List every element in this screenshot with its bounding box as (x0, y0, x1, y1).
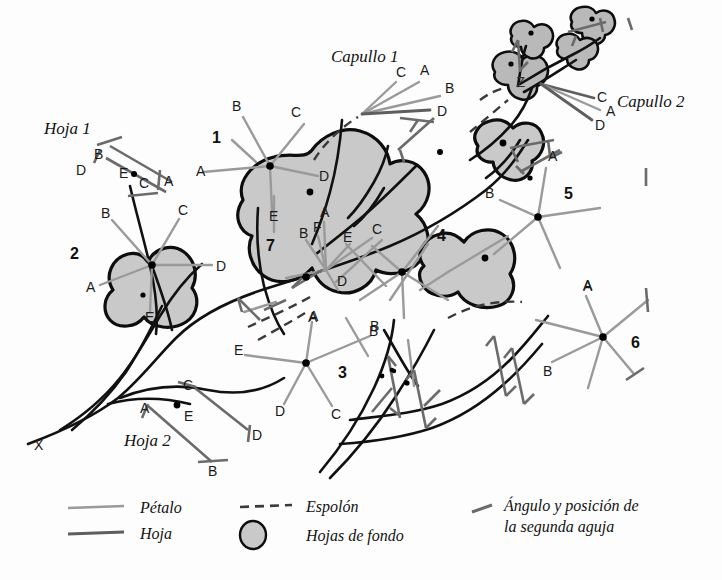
capullo2-label-A: A (606, 103, 616, 119)
cluster-number-1: 1 (212, 129, 221, 146)
legend-swatch-hoja (68, 532, 124, 534)
legend-swatch-hojas-fondo (240, 521, 266, 549)
petal-ray-6-B (552, 337, 603, 362)
hoja1-label-E: E (119, 165, 128, 181)
legend-swatch-aguja (472, 505, 492, 512)
petal-label-7-A: A (320, 204, 330, 220)
label-hoja2: Hoja 2 (123, 431, 171, 450)
legend: Pétalo Hoja Espolón Hojas de fondo Ángul… (68, 496, 639, 549)
legend-label-petalo: Pétalo (139, 499, 182, 516)
petal-ray-3-E (245, 355, 306, 363)
petal-label-2-D: D (216, 258, 226, 274)
hoja2-label-E: E (184, 408, 193, 424)
label-capullo2: Capullo 2 (617, 92, 685, 111)
petal-label-7-B: B (299, 225, 308, 241)
cluster-number-5: 5 (564, 185, 573, 202)
legend-swatch-petalo (68, 506, 124, 508)
petal-label-1-C: C (291, 104, 301, 120)
petal-label-2-B: B (101, 205, 110, 221)
diagram-canvas: Capullo 1 Capullo 2 Hoja 1 Hoja 2 X Z 1 … (0, 0, 722, 580)
capullo1-label-C: C (396, 64, 406, 80)
node-zblob-inner (508, 61, 513, 66)
petal-loose-4 (408, 340, 414, 386)
node-cluster2 (148, 261, 156, 269)
capullo2-label-D: D (595, 117, 605, 133)
spur-cluster7-lower (248, 296, 312, 327)
petal-label-7-E: E (343, 229, 352, 245)
node-cluster3 (302, 359, 310, 367)
loose-label-A-c5lower: A (583, 277, 593, 293)
petal-label-2-E: E (145, 309, 154, 325)
petal-ray-6-ne (603, 300, 648, 337)
hoja1-label-B: B (94, 146, 103, 162)
node-blobmid-inner (500, 140, 507, 147)
petal-label-3-E: E (234, 342, 243, 358)
cluster-number-4: 4 (437, 227, 446, 244)
petal-label-7-C: C (372, 221, 382, 237)
hoja2-label-A: A (140, 400, 150, 416)
hoja1-label-C: C (139, 175, 149, 191)
petal-label-7-F: F (313, 219, 322, 235)
cluster-number-6: 6 (631, 334, 640, 351)
petal-loose-5 (232, 140, 256, 162)
petal-ray-5-lower (538, 217, 560, 268)
node-blob4-inner (482, 255, 489, 262)
needle-hoja2 (142, 382, 250, 462)
cluster-number-3: 3 (338, 364, 347, 381)
hoja2-label-D: D (252, 427, 262, 443)
petal-label-1-D: D (319, 168, 329, 184)
cluster-number-2: 2 (70, 245, 79, 262)
petal-label-6-B: B (543, 363, 552, 379)
petal-ray-3-C (306, 363, 332, 406)
embroidery-pattern-svg: Capullo 1 Capullo 2 Hoja 1 Hoja 2 X Z 1 … (0, 0, 722, 580)
node-topleft-small (528, 30, 533, 35)
petal-ray-3-A (306, 322, 312, 363)
petal-ray-5-B (500, 200, 538, 217)
node-cluster6 (599, 333, 607, 341)
petal-ray-6-left (536, 320, 603, 337)
node-hoja2 (174, 402, 181, 409)
label-z-marker: Z (516, 73, 525, 90)
node-blob2-inner (140, 292, 145, 297)
node-cluster5 (534, 213, 542, 221)
label-origin-x: X (34, 437, 44, 453)
node-needle-lr3 (392, 369, 396, 373)
petal-label-5-B: B (485, 185, 494, 201)
legend-label-hojas-fondo: Hojas de fondo (305, 527, 404, 545)
needle-hoja1 (94, 137, 172, 196)
spur-zblob (480, 88, 504, 100)
legend-swatch-espolon (240, 505, 292, 507)
node-cluster1 (266, 162, 274, 170)
petal-ray-6-A (586, 296, 603, 337)
petal-label-7-D: D (337, 273, 347, 289)
petal-ray-1-B (243, 117, 270, 166)
petal-ray-5-A (538, 168, 546, 217)
node-cluster4 (398, 268, 406, 276)
hoja2-label-B: B (208, 463, 217, 479)
petal-ray-5-right (538, 208, 600, 217)
petal-label-2-A: A (86, 279, 96, 295)
legend-label-espolon: Espolón (305, 498, 358, 516)
node-hoja1 (131, 171, 137, 177)
legend-label-aguja-line2: la segunda aguja (504, 518, 614, 536)
node-needle-mid (527, 175, 532, 180)
stem-lower-right-2 (330, 330, 434, 478)
petal-ray-6-se (603, 337, 634, 374)
hoja1-label-D: D (76, 162, 86, 178)
petal-ray-3-D (284, 363, 306, 404)
petal-label-1-A: A (196, 163, 206, 179)
node-topright-small (589, 16, 594, 21)
loose-label-A-below7: A (308, 309, 318, 325)
hoja2-label-C: C (183, 377, 193, 393)
petal-label-2-C: C (178, 202, 188, 218)
node-path-mid (437, 149, 443, 155)
petal-label-1-E: E (269, 208, 278, 224)
legend-label-aguja-line1: Ángulo y posición de (503, 496, 639, 515)
petal-label-5-A: A (548, 148, 558, 164)
capullo1-label-A: A (420, 62, 430, 78)
legend-label-hoja: Hoja (139, 525, 172, 543)
spur-cluster3 (258, 310, 310, 340)
loose-label-B-lower: B (370, 318, 379, 334)
node-needle-left (380, 374, 385, 379)
hoja1-label-A: A (164, 173, 174, 189)
